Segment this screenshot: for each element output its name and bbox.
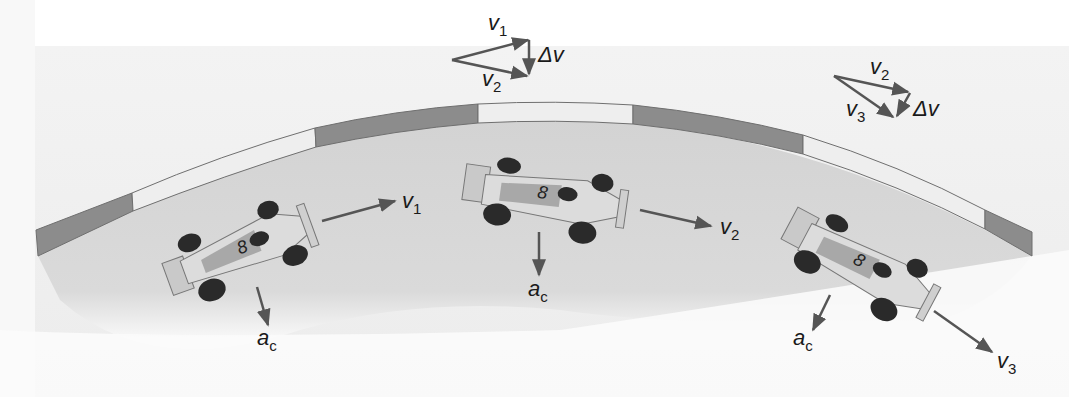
- triangle1-label-delta-v: Δv: [537, 42, 566, 67]
- triangle2-label-delta-v: Δv: [912, 96, 941, 121]
- background-top: [0, 0, 1069, 46]
- centripetal-acceleration-diagram: 8 8 8: [0, 0, 1069, 397]
